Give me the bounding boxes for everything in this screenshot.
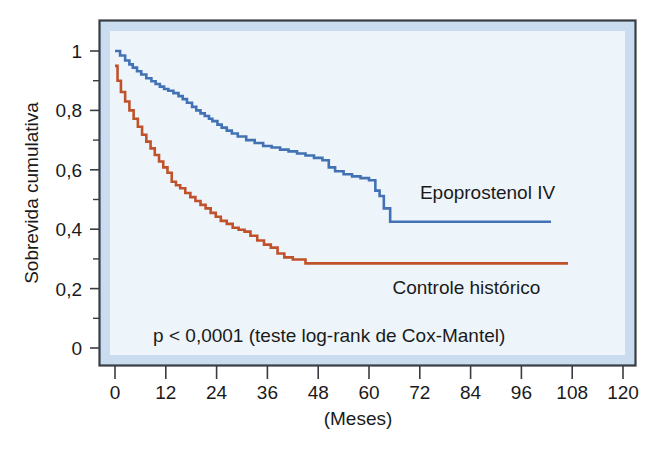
- y-tick-label: 0,8: [56, 100, 82, 121]
- x-tick-label: 0: [110, 382, 121, 403]
- series-label-0: Epoprostenol IV: [420, 182, 556, 203]
- y-tick-label: 0,2: [56, 279, 82, 300]
- x-tick-label: 84: [460, 382, 482, 403]
- y-tick-label: 0,6: [56, 160, 82, 181]
- x-tick-label: 24: [206, 382, 228, 403]
- y-tick-label: 0,4: [56, 219, 83, 240]
- x-tick-label: 60: [358, 382, 379, 403]
- annotation-layer: p < 0,0001 (teste log-rank de Cox-Mantel…: [153, 325, 505, 346]
- y-tick-label: 1: [71, 41, 82, 62]
- x-axis-title: (Meses): [324, 408, 393, 429]
- x-tick-label: 36: [257, 382, 278, 403]
- x-tick-label: 12: [155, 382, 176, 403]
- x-tick-label: 72: [409, 382, 430, 403]
- survival-curve-figure: 00,20,40,60,81 01224364860728496108120 E…: [0, 0, 671, 451]
- x-tick-label: 96: [511, 382, 532, 403]
- y-tick-label: 0: [71, 338, 82, 359]
- x-tick-label: 108: [556, 382, 588, 403]
- x-tick-label: 120: [607, 382, 639, 403]
- x-tick-label: 48: [308, 382, 329, 403]
- series-label-1: Controle histórico: [392, 277, 540, 298]
- p-value-annotation: p < 0,0001 (teste log-rank de Cox-Mantel…: [153, 325, 505, 346]
- y-axis-title: Sobrevida cumulativa: [21, 102, 42, 284]
